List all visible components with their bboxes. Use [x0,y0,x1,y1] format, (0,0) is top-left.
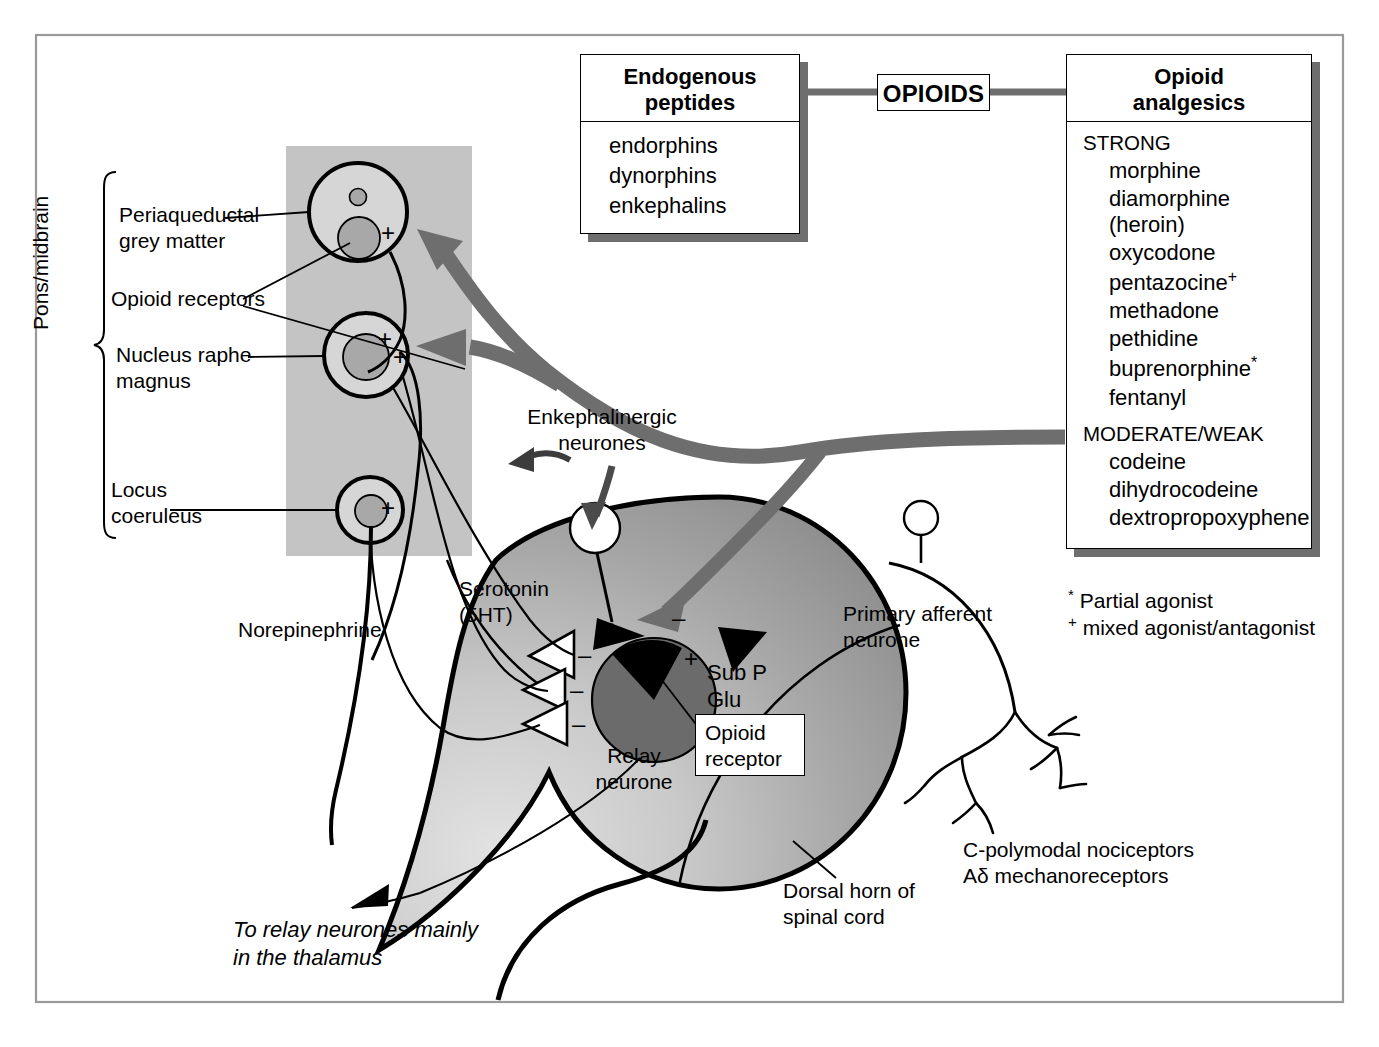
opioids-hub-box: OPIOIDS [877,74,990,111]
nrm-plus-sign-1: + [378,325,392,353]
afferent-label-line1: Primary afferent [843,602,992,627]
afferent-cell-body [904,501,938,535]
opioids-hub-label: OPIOIDS [878,75,989,108]
analgesic-strong-7: fentanyl [1109,385,1303,411]
nrm-plus-sign-2: + [393,343,407,371]
output-label-line1: To relay neurones mainly [233,917,478,943]
lc-plus-sign: + [381,494,395,522]
minus-sign-serotonin-2: – [570,676,583,704]
analgesic-strong-3-mark: + [1228,268,1237,285]
opioid-receptor-callout-line2: receptor [705,747,782,771]
footnote-0-text: Partial agonist [1080,589,1213,612]
serotonin-label-line2: (5HT) [459,603,513,628]
pag-label-line1: Periaqueductal [119,203,259,228]
analgesic-strong-5: pethidine [1109,326,1303,352]
analgesic-moderate-2: dextropropoxyphene [1109,505,1303,531]
footnote-0-mark: * [1068,586,1074,603]
footnote-0: * Partial agonist [1068,586,1213,614]
analgesic-strong-6: buprenorphine [1109,357,1251,382]
analgesic-strong-0: morphine [1109,158,1303,184]
analgesic-strong-6-wrap: buprenorphine* [1109,354,1303,382]
pag-plus-sign: + [381,219,395,247]
lc-label-line1: Locus [111,478,167,503]
relay-neurone-label-line2: neurone [586,770,682,795]
transmitters-line1: Sub P [707,660,767,686]
minus-sign-descending: – [672,604,685,632]
relay-neurone-label-line1: Relay [586,744,682,769]
opioid-receptor-callout: Opioid receptor [695,714,805,776]
nrm-leader [248,356,324,357]
analgesics-group-moderate-heading: MODERATE/WEAK [1083,422,1303,446]
nrm-label-line1: Nucleus raphe [116,343,251,368]
nociceptors-line2: Aδ mechanoreceptors [963,864,1168,889]
analgesic-strong-6-mark: * [1251,354,1257,371]
analgesics-group-strong: STRONG morphine diamorphine (heroin) oxy… [1083,131,1303,411]
analgesics-box-divider [1067,121,1311,122]
endogenous-item-1: dynorphins [609,163,717,189]
analgesic-strong-4: methadone [1109,298,1303,324]
analgesic-moderate-1: dihydrocodeine [1109,477,1303,503]
footnote-1-mark: + [1068,613,1077,630]
lc-label-line2: coeruleus [111,504,202,529]
lc-descending-fibre [331,527,371,845]
opioid-receptor-callout-line1: Opioid [705,721,766,745]
analgesics-box-header-line1: Opioid [1067,55,1311,90]
enkephalinergic-label-line1: Enkephalinergic [512,405,692,430]
analgesics-group-strong-heading: STRONG [1083,131,1303,155]
afferent-label-line2: neurone [843,628,920,653]
norepinephrine-label: Norepinephrine [238,618,382,643]
nociceptors-line1: C-polymodal nociceptors [963,838,1194,863]
analgesic-strong-3-wrap: pentazocine+ [1109,268,1303,296]
nrm-label-line2: magnus [116,369,191,394]
opioid-receptors-label: Opioid receptors [111,287,265,312]
analgesic-moderate-0: codeine [1109,449,1303,475]
pag-opioid-receptor [338,217,380,259]
dorsal-horn-label-line1: Dorsal horn of [783,879,915,904]
minus-sign-serotonin-1: – [578,641,591,669]
plus-sign-afferent: + [684,645,698,673]
minus-sign-norepinephrine: – [572,710,585,738]
footnote-1-text: mixed agonist/antagonist [1083,616,1315,639]
endogenous-peptides-box: Endogenous peptides endorphins dynorphin… [580,54,800,234]
transmitters-line2: Glu [707,687,741,713]
serotonin-label-line1: Serotonin [459,577,549,602]
figure-canvas: Endogenous peptides endorphins dynorphin… [0,0,1379,1047]
enkephalinergic-label-line2: neurones [512,431,692,456]
footnote-1: + mixed agonist/antagonist [1068,613,1315,641]
dorsal-horn-label-line2: spinal cord [783,905,885,930]
nociceptor-branches [905,712,1086,833]
analgesic-strong-3: pentazocine [1109,270,1228,295]
analgesic-strong-2: oxycodone [1109,240,1303,266]
endogenous-box-divider [581,121,799,122]
endogenous-box-header-line1: Endogenous [581,55,799,90]
pons-midbrain-label: Pons/midbrain [29,196,54,330]
endogenous-item-0: endorphins [609,133,718,159]
endogenous-box-header-line2: peptides [581,90,799,116]
minus-sign-enkephalinergic: – [600,608,613,636]
analgesic-strong-1: diamorphine (heroin) [1109,186,1303,238]
output-label-line2: in the thalamus [233,945,382,971]
analgesics-box-header-line2: analgesics [1067,90,1311,116]
endogenous-item-2: enkephalins [609,193,726,219]
pag-label-line2: grey matter [119,229,225,254]
analgesics-group-moderate: MODERATE/WEAK codeine dihydrocodeine dex… [1083,422,1303,531]
opioid-analgesics-box: Opioid analgesics STRONG morphine diamor… [1066,54,1312,549]
pag-small-dot [350,189,367,206]
